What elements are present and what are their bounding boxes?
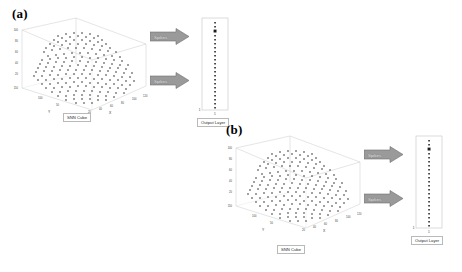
panel-a: (a) (0, 0, 248, 140)
cube-b-xtick-5: 120 (357, 212, 362, 216)
cube-b-axis-x-label: X (323, 229, 326, 233)
output-layer-plot-b: 1 1 (410, 134, 448, 232)
spikes-arrow-a-1-label: Spikes (154, 34, 167, 39)
output-layer-plot-a: 1 1 (196, 16, 234, 114)
snn-cube-svg-a: 100 80 60 40 20 150 100 50 20 40 60 80 1… (14, 14, 154, 114)
cube-a-ztick-2: 60 (15, 50, 18, 54)
output-layer-caption-b: Output Layer (411, 236, 443, 245)
output-layer-b-left-tick: 1 (413, 226, 415, 230)
output-layer-b-bottom-tick: 1 (428, 230, 430, 234)
spikes-arrow-b-1: Spikes (364, 146, 404, 163)
cube-a-xtick-2: 60 (110, 104, 113, 108)
output-layer-svg-b: 1 1 (410, 134, 448, 232)
cube-b-xtick-3: 80 (335, 219, 338, 223)
spikes-arrow-b-2-label: Spikes (368, 196, 381, 201)
cube-a-ytick-1: 50 (56, 103, 59, 107)
cube-b-ztick-1: 80 (229, 157, 232, 161)
cube-b-ytick-1: 50 (270, 221, 273, 225)
spikes-arrow-a-2-label: Spikes (154, 78, 167, 83)
cube-b-xtick-0: 20 (302, 228, 305, 232)
cube-a-xtick-4: 100 (132, 97, 137, 101)
cube-b-ztick-4: 20 (229, 190, 232, 194)
cube-a-ztick-3: 40 (15, 61, 18, 65)
snn-cube-plot-a: 100 80 60 40 20 150 100 50 20 40 60 80 1… (14, 14, 154, 114)
snn-cube-caption-b: SNN Cube (277, 245, 305, 254)
cube-a-axis-y-label: Y (48, 110, 51, 114)
cube-a-axis-x-label: X (109, 111, 112, 115)
spikes-arrow-b-2: Spikes (364, 190, 404, 207)
cube-a-xtick-5: 120 (143, 94, 148, 98)
cube-b-ztick-2: 60 (229, 168, 232, 172)
snn-cube-caption-a: SNN Cube (63, 113, 91, 122)
output-layer-a-left-tick: 1 (199, 108, 201, 112)
spikes-arrow-a-1: Spikes (150, 28, 190, 45)
cube-b-xtick-2: 60 (324, 222, 327, 226)
snn-cube-plot-b: 100 80 60 40 20 150 100 50 20 40 60 80 1… (228, 132, 368, 232)
spikes-arrow-b-1-label: Spikes (368, 152, 381, 157)
spikes-arrow-a-2: Spikes (150, 72, 190, 89)
cube-a-xtick-1: 40 (99, 107, 102, 111)
output-layer-a-bottom-tick: 1 (214, 112, 216, 116)
snn-cube-svg-b: 100 80 60 40 20 150 100 50 20 40 60 80 1… (228, 132, 368, 232)
cube-b-axis-y-label: Y (262, 228, 265, 232)
cube-b-ytick-0: 100 (252, 214, 257, 218)
cube-b-xtick-4: 100 (346, 215, 351, 219)
cube-b-ztick-0: 100 (228, 146, 233, 150)
cube-a-ztick-5: 150 (14, 86, 19, 90)
cube-a-ztick-4: 20 (15, 72, 18, 76)
cube-a-ztick-1: 80 (15, 39, 18, 43)
cube-b-ztick-3: 40 (229, 179, 232, 183)
cube-a-ztick-0: 100 (14, 28, 19, 32)
panel-b: (b) 100 80 60 40 20 150 100 50 20 40 60 … (214, 122, 462, 272)
cube-b-xtick-1: 40 (313, 225, 316, 229)
cube-a-xtick-3: 80 (121, 101, 124, 105)
cube-a-ytick-0: 100 (38, 96, 43, 100)
output-layer-svg-a: 1 1 (196, 16, 234, 114)
cube-b-ztick-5: 150 (228, 204, 233, 208)
